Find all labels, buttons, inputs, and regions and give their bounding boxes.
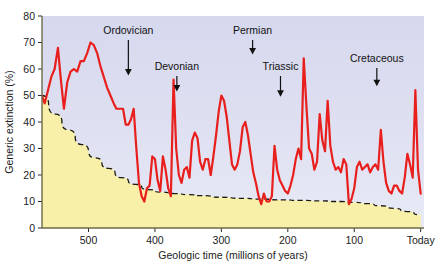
- y-tick-label: 70: [23, 36, 35, 48]
- x-tick-label: 300: [213, 234, 231, 246]
- x-axis-title: Geologic time (millions of years): [158, 249, 307, 261]
- x-tick-label: 100: [345, 234, 363, 246]
- y-tick-label: 50: [23, 89, 35, 101]
- x-tick-label: 500: [80, 234, 98, 246]
- annotation-label-cretaceous: Cretaceous: [350, 52, 404, 64]
- annotation-label-ordovician: Ordovician: [103, 24, 153, 36]
- y-tick-label: 0: [29, 222, 35, 234]
- extinction-rate-chart: 01020304050607080 500400300200100Today G…: [0, 0, 441, 267]
- y-tick-label: 30: [23, 142, 35, 154]
- x-tick-label: 400: [146, 234, 164, 246]
- annotation-label-devonian: Devonian: [155, 60, 200, 72]
- annotation-label-permian: Permian: [233, 24, 272, 36]
- x-tick-label: Today: [407, 234, 436, 246]
- chart-canvas: 01020304050607080 500400300200100Today G…: [0, 0, 441, 267]
- y-axis-title: Generic extinction (%): [3, 70, 15, 173]
- annotation-label-triassic: Triassic: [263, 60, 299, 72]
- x-tick-label: 200: [279, 234, 297, 246]
- y-tick-label: 60: [23, 63, 35, 75]
- y-tick-label: 20: [23, 169, 35, 181]
- y-tick-label: 40: [23, 116, 35, 128]
- y-tick-label: 10: [23, 195, 35, 207]
- y-tick-label: 80: [23, 10, 35, 22]
